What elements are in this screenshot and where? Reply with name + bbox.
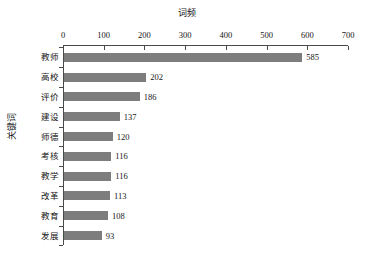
- y-tick: [59, 47, 63, 48]
- x-tick-label: 200: [138, 30, 151, 40]
- bar-value-label: 202: [150, 72, 163, 82]
- category-label: 发展: [41, 231, 59, 240]
- y-tick: [59, 107, 63, 108]
- category-label: 改革: [41, 192, 59, 201]
- y-tick: [59, 166, 63, 167]
- bar: 116: [64, 152, 111, 161]
- bar-row: 教育108: [64, 211, 349, 220]
- x-tick-label: 0: [61, 30, 65, 40]
- plot-area: 0100200300400500600700 教师585高校202评价186建设…: [63, 45, 348, 252]
- x-tick: [267, 46, 268, 50]
- bar-row: 考核116: [64, 152, 349, 161]
- bar-row: 教学116: [64, 172, 349, 181]
- y-tick: [59, 87, 63, 88]
- x-tick: [226, 46, 227, 50]
- bar: 202: [64, 73, 146, 82]
- bar: 120: [64, 132, 113, 141]
- bar: 186: [64, 92, 140, 101]
- bar-row: 高校202: [64, 73, 349, 82]
- bar-value-label: 585: [306, 52, 319, 62]
- bar: 585: [64, 53, 302, 62]
- bar-row: 评价186: [64, 92, 349, 101]
- category-label: 考核: [41, 152, 59, 161]
- category-label: 评价: [41, 93, 59, 102]
- bar-row: 建设137: [64, 112, 349, 121]
- category-label: 教学: [41, 172, 59, 181]
- category-label: 师德: [41, 132, 59, 141]
- bar-row: 改革113: [64, 191, 349, 200]
- bar-value-label: 108: [112, 211, 125, 221]
- x-tick-label: 600: [301, 30, 314, 40]
- category-label: 教育: [41, 212, 59, 221]
- bar-value-label: 186: [144, 92, 157, 102]
- category-label: 高校: [41, 73, 59, 82]
- y-tick: [59, 67, 63, 68]
- y-tick: [59, 127, 63, 128]
- bar-value-label: 113: [114, 191, 126, 201]
- bar-value-label: 116: [115, 171, 127, 181]
- y-axis-title: 关键词: [5, 97, 18, 157]
- x-tick-label: 300: [179, 30, 192, 40]
- category-label: 教师: [41, 53, 59, 62]
- bar-value-label: 116: [115, 151, 127, 161]
- bar: 137: [64, 112, 120, 121]
- x-axis-spine: [63, 45, 348, 46]
- chart-title: 词频: [0, 6, 375, 19]
- bar: 113: [64, 191, 110, 200]
- bar-value-label: 93: [106, 231, 115, 241]
- y-tick: [59, 186, 63, 187]
- bar-row: 发展93: [64, 231, 349, 240]
- bar: 116: [64, 172, 111, 181]
- x-tick-label: 100: [97, 30, 110, 40]
- x-tick: [144, 46, 145, 50]
- bar: 93: [64, 231, 102, 240]
- x-tick: [63, 46, 64, 50]
- x-tick: [307, 46, 308, 50]
- x-tick-label: 400: [219, 30, 232, 40]
- word-frequency-bar-chart: 词频 关键词 0100200300400500600700 教师585高校202…: [0, 0, 375, 270]
- x-tick: [348, 46, 349, 50]
- x-tick-label: 700: [342, 30, 355, 40]
- y-tick: [59, 206, 63, 207]
- bar-value-label: 120: [117, 132, 130, 142]
- bar-row: 教师585: [64, 53, 349, 62]
- x-tick-label: 500: [260, 30, 273, 40]
- y-tick: [59, 226, 63, 227]
- y-tick: [59, 245, 63, 246]
- bar-value-label: 137: [124, 112, 137, 122]
- bar: 108: [64, 211, 108, 220]
- x-tick: [104, 46, 105, 50]
- y-tick: [59, 146, 63, 147]
- bar-row: 师德120: [64, 132, 349, 141]
- x-tick: [185, 46, 186, 50]
- category-label: 建设: [41, 112, 59, 121]
